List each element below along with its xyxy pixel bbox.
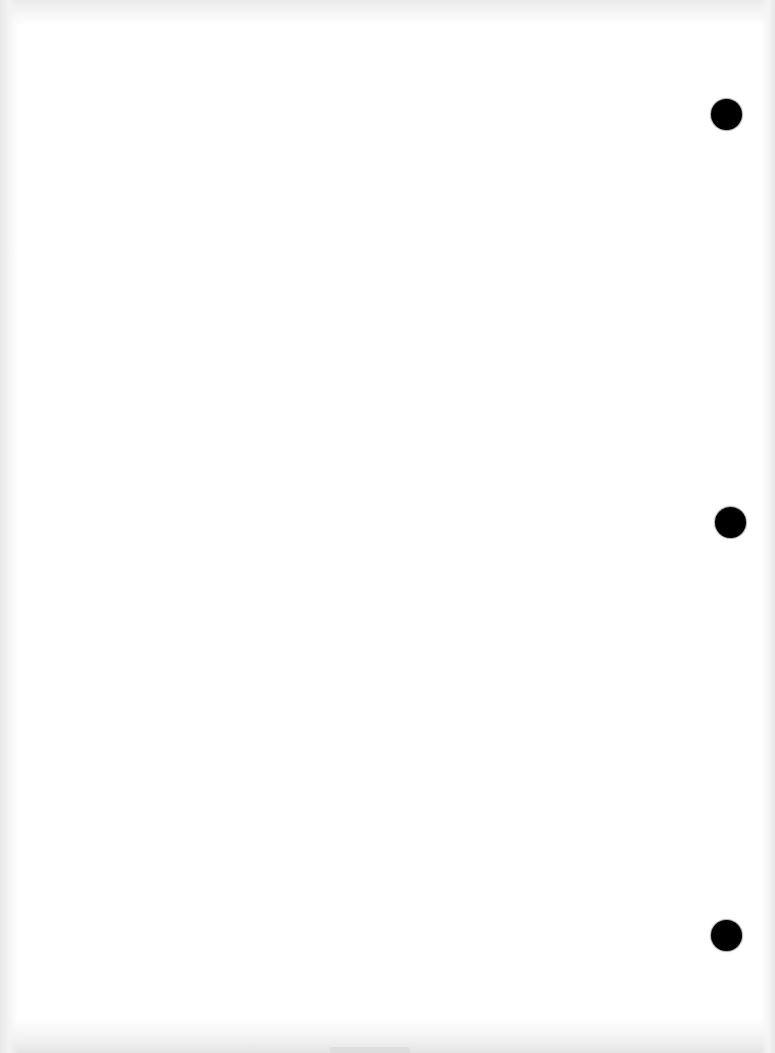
punch-hole-bottom — [711, 920, 742, 951]
punch-hole-top — [711, 99, 742, 130]
punch-hole-middle — [715, 507, 746, 538]
scan-edge-right — [761, 0, 775, 1053]
scan-edge-top — [0, 0, 775, 26]
scan-smudge — [330, 1047, 410, 1053]
scanned-blank-page — [0, 0, 775, 1053]
scan-edge-left — [0, 0, 18, 1053]
